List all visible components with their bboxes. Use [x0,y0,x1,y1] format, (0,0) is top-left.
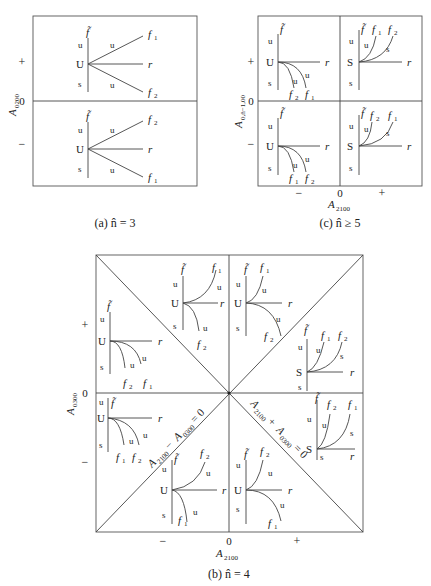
svg-text:2: 2 [206,453,210,461]
svg-text:u: u [268,121,273,131]
svg-text:f̃: f̃ [280,23,286,35]
svg-text:2: 2 [266,451,270,459]
svg-text:A: A [248,396,262,410]
svg-text:S: S [296,366,302,378]
svg-text:2: 2 [154,92,158,100]
figure-b-xtick-minus: − [160,534,167,548]
figure-c-caption: (c) n̂ ≥ 5 [320,216,361,230]
svg-text:s: s [100,362,104,372]
svg-text:f: f [268,517,273,529]
svg-text:f: f [305,88,310,100]
figure-b-sector-top-left: f̃ u U s r u u f 1 f 2 [171,261,225,352]
svg-text:1: 1 [184,520,188,528]
svg-text:u: u [130,360,135,370]
svg-text:1: 1 [295,178,299,186]
svg-text:u: u [268,468,273,478]
figure-c-xtick-plus: + [379,186,386,200]
svg-text:0300: 0300 [71,393,79,408]
svg-text:s: s [298,382,302,392]
svg-text:f: f [148,28,153,40]
svg-text:f: f [370,109,375,121]
svg-text:u: u [162,464,167,474]
svg-text:f̃: f̃ [86,26,92,38]
svg-text:A: A [274,423,288,437]
svg-text:u: u [206,468,211,478]
svg-text:u: u [307,414,312,424]
svg-text:2: 2 [270,336,274,344]
figure-c-xtick-minus: − [296,186,303,200]
svg-text:f: f [338,329,343,341]
svg-text:A: A [64,408,76,416]
svg-text:f: f [148,171,153,183]
svg-text:u: u [78,40,83,50]
figure-c-ytick-zero: 0 [248,95,254,107]
svg-text:s: s [78,79,82,89]
svg-text:f: f [348,398,353,410]
svg-text:u: u [364,124,369,134]
figure-b-sector-right-lower: f̃ f 2 f 1 u S s r u s [306,392,358,462]
svg-text:u: u [110,80,115,90]
figure-c-xtick-zero: 0 [337,187,343,199]
svg-text:u: u [142,353,147,363]
svg-text:2: 2 [203,344,207,352]
svg-text:1: 1 [311,94,315,102]
figure-c-xaxis-label: A 2100 [327,198,351,213]
svg-text:u: u [203,323,208,333]
svg-text:1: 1 [274,523,278,531]
svg-text:2: 2 [344,335,348,343]
svg-text:U: U [76,58,84,70]
figure-b-yaxis-label: A 0300 [64,393,79,417]
svg-text:= 0: = 0 [188,406,207,425]
svg-text:s: s [340,351,344,361]
svg-text:f: f [260,445,265,457]
svg-text:s: s [268,163,272,173]
svg-text:f: f [289,88,294,100]
svg-text:f: f [327,398,332,410]
figure-b-ytick-zero: 0 [82,387,88,399]
svg-text:r: r [325,56,330,68]
svg-text:s: s [173,321,177,331]
svg-text:A: A [215,547,223,559]
svg-text:r: r [350,366,355,378]
svg-text:f̃: f̃ [304,324,310,336]
svg-text:u: u [316,345,321,355]
svg-text:f: f [200,447,205,459]
svg-text:f: f [148,86,153,98]
svg-text:f̃: f̃ [244,263,250,275]
svg-text:1: 1 [394,115,398,123]
svg-text:2: 2 [129,383,133,391]
svg-text:f̃: f̃ [280,107,286,119]
svg-text:u: u [349,36,354,46]
svg-text:f: f [116,451,121,463]
svg-text:r: r [407,140,412,152]
svg-text:f: f [264,330,269,342]
svg-text:s: s [349,163,353,173]
svg-text:s: s [236,504,240,514]
svg-text:s: s [268,78,272,88]
svg-text:r: r [148,58,153,70]
figure-c: + 0 − A 0,n̂−1,00 − 0 + A 2100 f̃ u U s … [232,16,422,230]
svg-text:s: s [386,128,390,138]
svg-text:f: f [123,377,128,389]
diag-label-plus: A 2100 + A 0300 = 0 [246,396,311,462]
svg-text:U: U [234,484,242,496]
svg-text:U: U [266,56,274,68]
svg-text:2: 2 [311,178,315,186]
svg-text:r: r [158,335,163,347]
svg-text:U: U [160,484,168,496]
svg-text:s: s [78,164,82,174]
svg-text:f: f [148,113,153,125]
figure-b-sector-bottom-right: f̃ f 2 u U s r u u f 1 [234,445,293,531]
figure-b-sector-bottom-left: f̃ f 2 u U s r u u f 1 [160,447,227,528]
figure-b-sector-top-right: f̃ f 1 u U s r u u f 2 [234,261,293,344]
figure-a-caption: (a) n̂ = 3 [94,216,135,230]
figure-b-caption: (b) n̂ = 4 [208,567,250,581]
svg-text:A: A [327,198,335,210]
svg-text:1: 1 [354,404,358,412]
svg-text:1: 1 [149,383,153,391]
svg-text:s: s [349,78,353,88]
figure-a-yaxis-label: A 0200 [6,94,21,118]
svg-text:r: r [148,143,153,155]
svg-text:0200: 0200 [13,94,21,109]
svg-text:1: 1 [122,457,126,465]
